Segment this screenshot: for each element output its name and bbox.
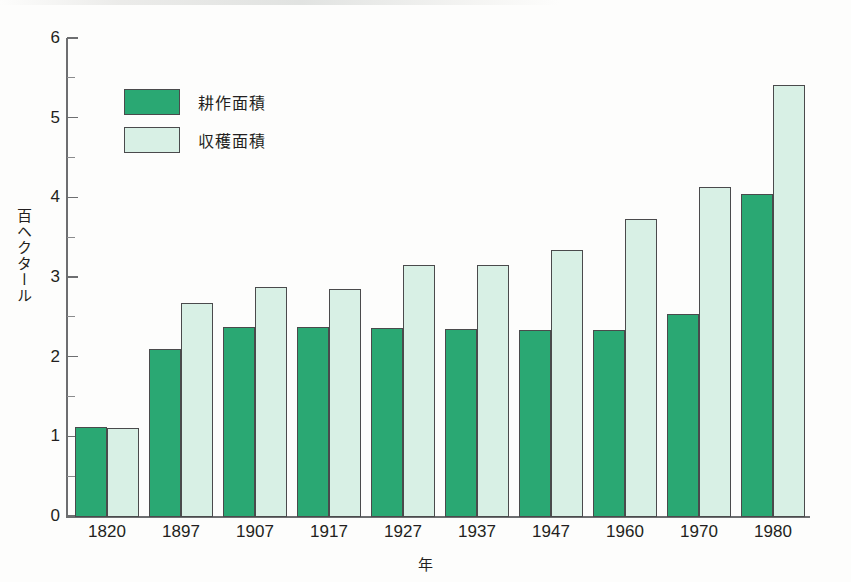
x-tick-label: 1820 [70,523,144,542]
bar-1820-harvested [107,428,139,517]
y-tick-minor [67,476,75,477]
y-tick-label: 2 [20,348,60,365]
y-tick-label: 5 [20,109,60,126]
y-tick-minor [67,157,75,158]
y-tick-major [67,356,78,357]
bar-1927-harvested [403,265,435,517]
legend-swatch-harvested [124,127,180,153]
y-tick-label: 4 [20,188,60,205]
y-tick-label: 1 [20,427,60,444]
x-tick-label: 1917 [292,523,366,542]
bar-1897-cultivated [149,349,181,517]
bar-chart-plot-area: 0123456 百ヘクタール 1820189719071917192719371… [0,0,851,582]
legend-swatch-cultivated [124,89,180,115]
y-tick-minor [67,77,75,78]
y-tick-major [67,276,78,277]
y-tick-minor [67,396,75,397]
bar-1897-harvested [181,303,213,517]
bar-1980-harvested [773,85,805,517]
chart-page: 0123456 百ヘクタール 1820189719071917192719371… [0,0,851,582]
x-tick-label: 1897 [144,523,218,542]
y-axis-title: 百ヘクタール [12,208,34,304]
bar-1820-cultivated [75,427,107,517]
bar-1970-harvested [699,187,731,517]
bar-1917-cultivated [297,327,329,517]
bar-1907-harvested [255,287,287,517]
bar-1947-harvested [551,250,583,517]
y-tick-major [67,117,78,118]
bar-1927-cultivated [371,328,403,517]
bar-1980-cultivated [741,194,773,517]
y-tick-major [67,37,78,38]
bar-1937-cultivated [445,329,477,517]
legend-label: 耕作面積 [198,90,266,114]
x-axis-title: 年 [0,553,851,574]
bar-1937-harvested [477,265,509,517]
x-tick-label: 1947 [514,523,588,542]
x-tick-label: 1937 [440,523,514,542]
legend-label: 収穫面積 [198,128,266,152]
y-tick-minor [67,237,75,238]
x-tick-label: 1980 [736,523,810,542]
bar-1960-cultivated [593,330,625,517]
y-tick-major [67,197,78,198]
bar-1970-cultivated [667,314,699,517]
y-tick-label: 0 [20,507,60,524]
legend-item-2: 収穫面積 [124,127,266,153]
x-tick-label: 1907 [218,523,292,542]
bar-1917-harvested [329,289,361,517]
x-tick-label: 1927 [366,523,440,542]
x-tick-label: 1970 [662,523,736,542]
chart-legend: 耕作面積収穫面積 [124,89,266,165]
bar-1907-cultivated [223,327,255,517]
y-tick-minor [67,316,75,317]
bar-1960-harvested [625,219,657,517]
x-tick-label: 1960 [588,523,662,542]
legend-item-1: 耕作面積 [124,89,266,115]
bar-1947-cultivated [519,330,551,517]
y-tick-label: 6 [20,29,60,46]
